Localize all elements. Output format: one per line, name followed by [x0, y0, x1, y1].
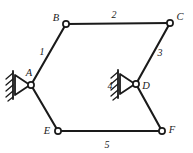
joint-label-C: C	[176, 11, 184, 22]
joint-label-D: D	[141, 80, 150, 91]
joint-circle-A	[28, 82, 34, 88]
link-label-5: 5	[105, 139, 110, 150]
support-pin-D	[111, 70, 135, 100]
joint-circle-F	[159, 128, 165, 134]
joint-circle-C	[167, 20, 173, 26]
link-line-D-F	[136, 84, 162, 131]
joint-label-F: F	[168, 124, 176, 135]
support-A-hatching	[6, 73, 13, 101]
link-line-A-B	[31, 24, 66, 85]
mechanism-diagram: A B C D E F 1 2 3 5 4	[0, 0, 193, 153]
link-line-B-C	[66, 23, 170, 24]
joint-label-A: A	[25, 67, 33, 78]
link-label-2: 2	[112, 9, 117, 20]
joint-circle-B	[63, 21, 69, 27]
link-label-1: 1	[40, 46, 45, 57]
joint-label-B: B	[53, 12, 60, 23]
link-label-3: 3	[157, 47, 163, 58]
joint-circle-D	[133, 81, 139, 87]
mechanism-svg-canvas: A B C D E F 1 2 3 5 4	[0, 0, 193, 153]
link-lines-group	[31, 23, 170, 131]
joint-circle-E	[55, 128, 61, 134]
joint-label-E: E	[43, 125, 51, 136]
link-line-C-D	[136, 23, 170, 84]
support-label-4: 4	[108, 80, 113, 91]
